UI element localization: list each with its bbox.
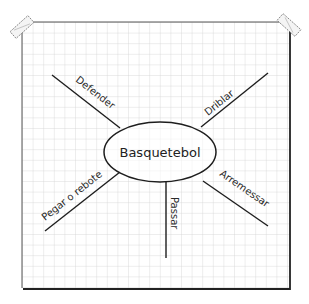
mind-map-diagram: Defender Driblar Pegar o rebote Passar A… [0, 0, 309, 304]
central-node: Basquetebol [104, 122, 216, 182]
central-node-label: Basquetebol [119, 145, 200, 160]
branch-label-passar: Passar [169, 197, 180, 230]
